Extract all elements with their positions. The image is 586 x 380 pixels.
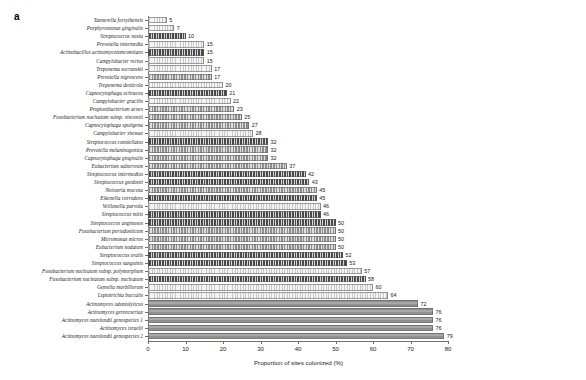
bar [148,276,366,282]
species-label: Fusobacterium periodonticum [79,228,143,234]
species-label: Campylobacter rectus [96,58,143,64]
bar-row: Porphyromonas gingivalis7 [148,24,448,32]
bar-row: Streptococcus anginosus50 [148,219,448,227]
bar-value-label: 79 [447,333,453,339]
bar-row: Eikenella corrodens45 [148,194,448,202]
bar-row: Treponema socranskii17 [148,65,448,73]
species-label: Fusobacterium nucleatum subsp. vincentii [53,114,143,120]
species-label: Propionibacterium acnes [89,106,143,112]
species-label: Actinomyces israelii [100,325,143,331]
species-label: Streptococcus noxia [100,33,143,39]
bar [148,49,204,55]
species-label: Fusobacterium nucleatum subsp. polymorph… [42,268,143,274]
bar [148,252,343,258]
bar-row: Streptococcus oralis52 [148,251,448,259]
bar [148,138,268,144]
species-label: Prevotella nigrescens [97,74,143,80]
bar [148,82,223,88]
bar [148,17,167,23]
species-label: Prevotella intermedia [97,41,143,47]
species-label: Porphyromonas gingivalis [87,25,143,31]
bar-value-label: 15 [207,41,213,47]
bar-value-label: 21 [229,90,235,96]
bar-value-label: 64 [391,292,397,298]
bar-value-label: 50 [338,244,344,250]
bar-row: Streptococcus mitis46 [148,210,448,218]
bar-value-label: 17 [214,74,220,80]
bar-value-label: 5 [169,17,172,23]
x-tick-mark [298,341,299,344]
x-tick-label: 20 [220,346,227,352]
species-label: Neisseria mucosa [105,187,143,193]
bar-value-label: 45 [319,187,325,193]
bar [148,195,317,201]
bar-row: Micromonas micros50 [148,235,448,243]
bar-value-label: 46 [323,211,329,217]
species-label: Capnocytophaga gingivalis [85,155,143,161]
bar [148,163,287,169]
bar-chart-plot-area: Tannerella forsythensis5Porphyromonas gi… [148,16,448,340]
x-tick-mark [336,341,337,344]
x-tick-label: 0 [146,346,149,352]
bar-row: Actinobacillus actinomycetemcomitans15 [148,48,448,56]
x-tick-label: 70 [407,346,414,352]
x-tick-mark [186,341,187,344]
x-tick-mark [261,341,262,344]
bar-value-label: 57 [364,268,370,274]
bar [148,292,388,298]
species-label: Actinomyces naeslundii genospecies 2 [62,333,143,339]
bar-row: Capnocytophaga ochracea21 [148,89,448,97]
x-axis-label: Proportion of sites colonized (%) [148,359,449,366]
bar [148,317,433,323]
bar-row: Prevotella melaninogenica32 [148,146,448,154]
species-label: Fusobacterium nucleatum subsp. nucleatum [49,276,143,282]
bar-value-label: 72 [421,301,427,307]
bar-row: Propionibacterium acnes23 [148,105,448,113]
species-label: Gemella morbillorum [97,284,143,290]
species-label: Streptococcus constellatus [87,139,143,145]
bar-row: Gemella morbillorum60 [148,283,448,291]
bar [148,114,242,120]
bar-value-label: 17 [214,66,220,72]
species-label: Campylobacter showae [93,130,143,136]
bar-row: Veillonella parvula46 [148,202,448,210]
bar-row: Actinomyces gerencseriae76 [148,308,448,316]
bar-value-label: 37 [289,163,295,169]
bar-row: Neisseria mucosa45 [148,186,448,194]
bar-value-label: 76 [436,309,442,315]
bar-row: Prevotella intermedia15 [148,40,448,48]
x-tick-label: 30 [257,346,264,352]
bar-row: Eubacterium saburreum37 [148,162,448,170]
species-label: Prevotella melaninogenica [86,147,143,153]
bar [148,57,204,63]
bar-value-label: 7 [177,25,180,31]
species-label: Treponema denticola [98,82,143,88]
bar [148,333,444,339]
bar [148,74,212,80]
species-label: Leptotrichia buccalis [98,292,143,298]
bar-value-label: 27 [252,122,258,128]
bar-row: Fusobacterium nucleatum subsp. nucleatum… [148,275,448,283]
bar-row: Treponema denticola20 [148,81,448,89]
bar [148,25,174,31]
x-tick-label: 10 [182,346,189,352]
bar-value-label: 15 [207,49,213,55]
bar-value-label: 32 [271,139,277,145]
bar [148,146,268,152]
bar-value-label: 42 [308,171,314,177]
bar [148,130,253,136]
species-label: Streptococcus anginosus [91,220,143,226]
bar-row: Tannerella forsythensis5 [148,16,448,24]
figure-panel-a: a Tannerella forsythensis5Porphyromonas … [0,0,586,380]
bar-row: Streptococcus intermedius42 [148,170,448,178]
bar [148,171,306,177]
bar [148,203,321,209]
species-label: Capnocytophaga sputigena [85,122,143,128]
x-tick-label: 80 [445,346,452,352]
bar-value-label: 46 [323,203,329,209]
bar [148,179,309,185]
x-tick-label: 40 [295,346,302,352]
species-label: Treponema socranskii [96,66,143,72]
species-label: Streptococcus sanguinis [92,260,143,266]
species-label: Eubacterium nodatum [96,244,143,250]
